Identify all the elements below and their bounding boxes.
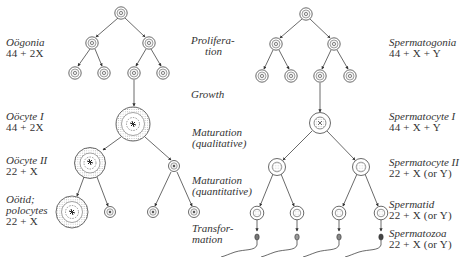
stage-proliferation-line2: tion [191, 46, 235, 57]
stage-maturation-quantitative: Maturation (quantitative) [192, 175, 252, 197]
label-spermatozoa-formula: 22 + X (or Y) [389, 239, 452, 250]
stage-transformation: Transfor- mation [192, 223, 233, 245]
label-oogonia-formula: 44 + 2X [6, 48, 45, 59]
spermatocyte-ii-cells [269, 159, 370, 176]
stage-growth-label: Growth [191, 89, 224, 100]
stage-proliferation: Prolifera- tion [191, 35, 235, 57]
label-oocyte-ii-formula: 22 + X [6, 166, 47, 177]
stage-maturation-qualitative: Maturation (qualitative) [192, 127, 246, 149]
stage-maturation-q2-line2: (quantitative) [192, 186, 252, 197]
first-polar-body [169, 161, 180, 172]
label-spermatid-formula: 22 + X (or Y) [389, 210, 452, 221]
spermatocyte-i-cell [310, 113, 331, 134]
label-ootid: Oötid; polocytes 22 + X [6, 194, 48, 227]
polocytes [105, 207, 200, 218]
stage-transformation-line2: mation [192, 234, 233, 245]
oocyte-ii-cell [75, 148, 106, 179]
ootid-cell [56, 196, 88, 228]
label-spermatocyte-ii-formula: 22 + X (or Y) [389, 168, 459, 179]
label-spermatogonia: Spermatogonia 44 + X + Y [389, 37, 456, 59]
label-oocyte-i: Oöcyte I 44 + 2X [6, 111, 44, 133]
spermatogonia-cells [256, 8, 356, 82]
label-oogonia: Oögonia 44 + 2X [6, 37, 45, 59]
spermatid-cells [250, 206, 388, 220]
label-spermatocyte-i-formula: 44 + X + Y [389, 122, 455, 133]
label-oocyte-ii: Oöcyte II 22 + X [6, 155, 47, 177]
label-spermatogonia-formula: 44 + X + Y [389, 48, 456, 59]
label-spermatocyte-i: Spermatocyte I 44 + X + Y [389, 111, 455, 133]
stage-maturation-q1-line2: (qualitative) [192, 138, 246, 149]
label-ootid-formula: 22 + X [6, 216, 48, 227]
label-spermatocyte-ii: Spermatocyte II 22 + X (or Y) [389, 157, 459, 179]
label-spermatozoa: Spermatozoa 22 + X (or Y) [389, 228, 452, 250]
spermatozoa [221, 234, 383, 257]
label-spermatid: Spermatid 22 + X (or Y) [389, 199, 452, 221]
stage-growth: Growth [191, 89, 224, 100]
label-oocyte-i-formula: 44 + 2X [6, 122, 44, 133]
oocyte-i-cell [116, 107, 150, 141]
oogonia-cells [69, 7, 169, 79]
